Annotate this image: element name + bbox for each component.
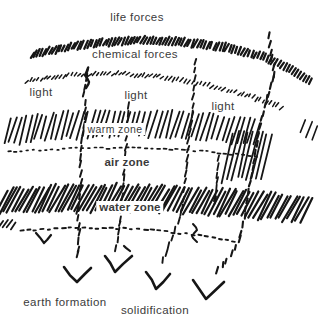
label-light-right: light — [208, 100, 237, 112]
label-chemical-forces: chemical forces — [92, 48, 178, 60]
label-air-zone: air zone — [101, 156, 152, 168]
label-earth-formation: earth formation — [23, 296, 106, 308]
diagram-canvas: life forces chemical forces light light … — [0, 0, 319, 325]
label-water-zone: water zone — [96, 201, 163, 213]
label-light-center: light — [121, 89, 150, 101]
label-life-forces: life forces — [110, 11, 164, 23]
label-warm-zone: warm zone — [85, 123, 146, 135]
label-light-left: light — [29, 86, 52, 98]
label-solidification: solidification — [121, 304, 189, 316]
